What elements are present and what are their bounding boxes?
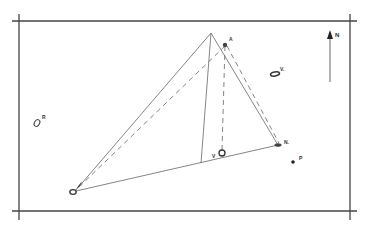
north-arrow-icon: [327, 30, 333, 82]
diagram-canvas: [0, 0, 368, 232]
apex-to-n1-line: [211, 33, 278, 145]
dashed-lines: [78, 46, 279, 188]
label-a: A: [229, 37, 233, 42]
label-north: N: [335, 32, 339, 38]
a-to-n1-dashed-line: [227, 46, 279, 143]
label-v: V: [212, 154, 215, 159]
label-p: P: [299, 156, 302, 161]
solid-lines: [76, 33, 278, 191]
apex-vertical-line: [201, 33, 211, 163]
point-n1-marker: [275, 143, 282, 147]
a-to-x-dashed-line: [78, 46, 225, 188]
a-to-v-dashed-line: [222, 46, 225, 150]
apex-to-x-line: [76, 33, 211, 190]
label-r: R: [42, 115, 46, 120]
point-v-marker: [219, 150, 225, 156]
map-frame: [12, 14, 357, 220]
point-v2-marker: [270, 71, 280, 77]
label-v2: V.: [280, 67, 284, 72]
survey-diagram: A V N. P V. R N: [0, 0, 368, 232]
point-a-marker: [223, 43, 227, 47]
point-x-marker: [70, 190, 76, 195]
label-n1: N.: [284, 140, 289, 145]
point-p-marker: [291, 160, 295, 164]
base-line: [76, 145, 278, 191]
point-r-marker: [33, 119, 41, 128]
